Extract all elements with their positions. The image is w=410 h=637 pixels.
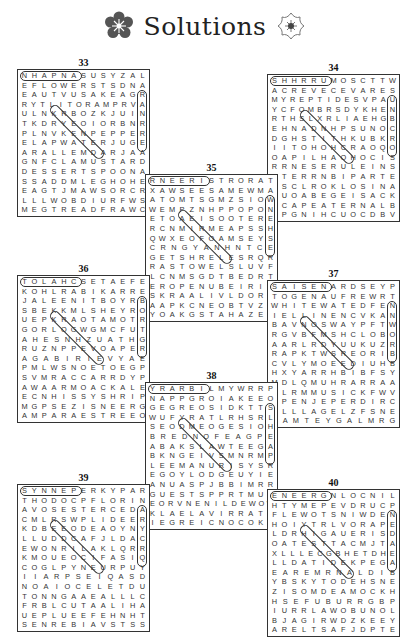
grid-letter: O — [388, 330, 397, 340]
grid-letter: R — [270, 330, 279, 340]
grid-letter: F — [270, 510, 279, 520]
grid-letter: U — [158, 490, 167, 500]
grid-letter: N — [69, 363, 78, 373]
grid-letter: S — [99, 186, 108, 196]
grid-letter: N — [378, 407, 387, 417]
grid-letter: S — [138, 620, 147, 630]
grid-letter: N — [197, 205, 206, 215]
grid-letter: O — [118, 167, 127, 177]
grid-letter: N — [20, 71, 29, 81]
grid-letter: N — [197, 301, 206, 311]
grid-letter: A — [168, 384, 177, 394]
grid-letter: R — [256, 272, 265, 282]
grid-letter: L — [40, 515, 49, 525]
grid-letter: O — [40, 553, 49, 563]
grid-row: TONNGAAEALLLC — [20, 592, 147, 602]
grid-letter: U — [99, 563, 108, 573]
grid-letter: G — [180, 243, 189, 253]
grid-letter: H — [280, 124, 289, 134]
grid-row: GETSHRELESRQR — [148, 253, 275, 263]
grid-letter: A — [299, 191, 308, 201]
grid-row: AARLRDYUUKUZR — [270, 340, 397, 350]
grid-letter: S — [99, 157, 108, 167]
grid-letter: G — [319, 491, 328, 501]
grid-letter: D — [358, 625, 367, 635]
grid-letter: E — [280, 311, 289, 321]
grid-letter: D — [358, 301, 367, 311]
grid-letter: U — [59, 611, 68, 621]
grid-letter: S — [349, 124, 358, 134]
grid-letter: R — [309, 76, 318, 86]
grid-letter: O — [197, 470, 206, 480]
grid-letter: E — [309, 201, 318, 211]
grid-letter: O — [368, 143, 377, 153]
grid-row: ANUASPJBBIMRR — [148, 480, 275, 490]
grid-letter: L — [49, 563, 58, 573]
grid-letter: P — [255, 432, 264, 442]
grid-letter: O — [246, 518, 255, 528]
grid-letter: A — [266, 186, 275, 196]
grid-letter: T — [65, 100, 74, 110]
grid-letter: E — [168, 490, 177, 500]
grid-letter: I — [89, 196, 98, 206]
grid-letter: S — [197, 195, 206, 205]
grid-letter: T — [177, 262, 186, 272]
grid-letter: E — [319, 191, 328, 201]
grid-letter: K — [108, 383, 117, 393]
grid-letter: P — [40, 411, 49, 421]
grid-letter: E — [368, 616, 377, 626]
grid-letter: D — [30, 524, 39, 534]
grid-letter: F — [212, 432, 221, 442]
grid-letter: O — [59, 325, 68, 335]
grid-letter: N — [290, 124, 299, 134]
grid-letter: I — [84, 354, 93, 364]
grid-letter: E — [138, 287, 147, 297]
grid-letter: A — [148, 442, 157, 452]
grid-letter: R — [358, 378, 367, 388]
grid-letter: D — [333, 95, 342, 105]
grid-letter: E — [193, 499, 202, 509]
grid-letter: R — [227, 509, 236, 519]
grid-letter: A — [79, 186, 88, 196]
grid-letter: A — [40, 71, 49, 81]
grid-letter: B — [280, 577, 289, 587]
grid-letter: D — [207, 272, 216, 282]
grid-letter: I — [31, 572, 40, 582]
grid-letter: J — [108, 109, 117, 119]
grid-letter: M — [227, 451, 236, 461]
grid-letter: H — [108, 177, 117, 187]
grid-letter: O — [187, 262, 196, 272]
grid-letter: E — [299, 539, 308, 549]
grid-letter: R — [138, 486, 147, 496]
grid-letter: F — [99, 205, 108, 215]
grid-letter: P — [79, 515, 88, 525]
grid-letter: E — [339, 201, 348, 211]
grid-letter: O — [207, 422, 216, 432]
grid-letter: O — [168, 422, 177, 432]
grid-letter: I — [324, 95, 333, 105]
grid-letter: S — [236, 461, 245, 471]
grid-row: SKRAALIVLDORE — [148, 291, 275, 301]
grid-letter: K — [177, 442, 186, 452]
grid-letter: E — [138, 138, 147, 148]
grid-letter: D — [79, 524, 88, 534]
grid-letter: L — [187, 509, 196, 519]
grid-letter: L — [299, 340, 308, 350]
grid-letter: A — [89, 90, 98, 100]
grid-letter: R — [30, 601, 39, 611]
grid-letter: G — [177, 451, 186, 461]
grid-letter: E — [388, 625, 397, 635]
grid-letter: Q — [118, 544, 127, 554]
grid-row: GEGREOSIDKTTS — [148, 403, 275, 413]
grid-letter: U — [95, 335, 104, 345]
grid-letter: R — [356, 597, 365, 607]
grid-letter: D — [207, 470, 216, 480]
grid-letter: R — [79, 81, 88, 91]
grid-letter: G — [40, 563, 49, 573]
grid-letter: S — [227, 262, 236, 272]
grid-letter: O — [257, 499, 266, 509]
grid-row: EROPENUBEIRIS — [148, 282, 275, 292]
grid-letter: T — [270, 292, 279, 302]
grid-letter: I — [79, 620, 88, 630]
grid-letter: K — [349, 134, 358, 144]
